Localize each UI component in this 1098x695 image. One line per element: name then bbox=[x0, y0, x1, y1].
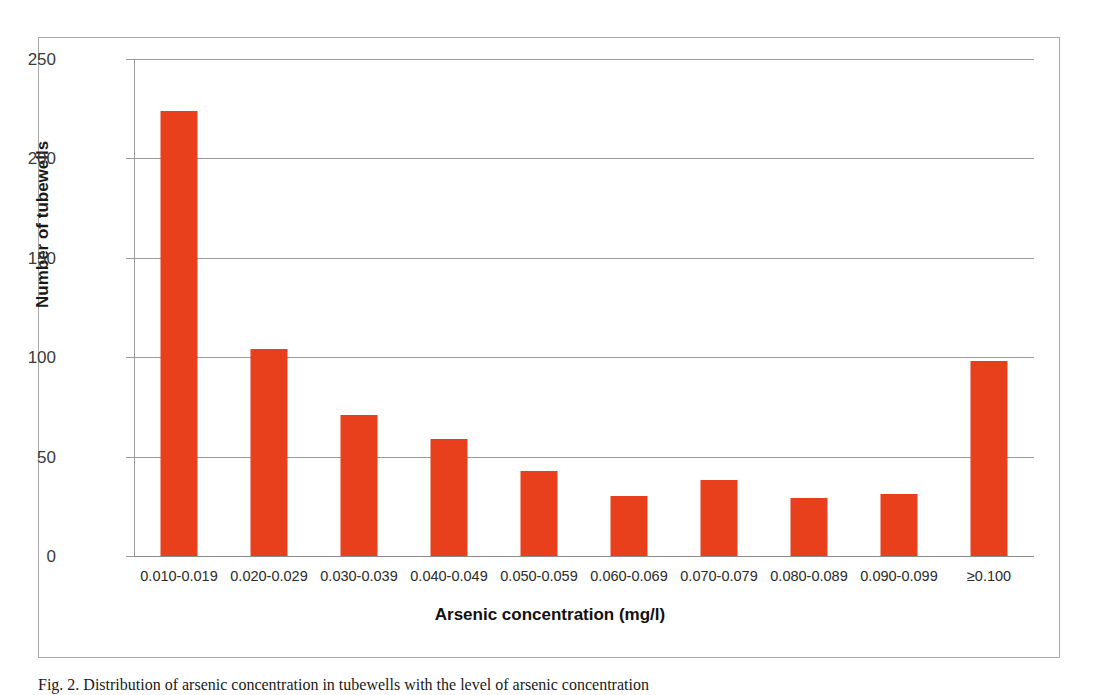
bar-slot bbox=[764, 59, 854, 556]
tick-mark-250 bbox=[126, 59, 134, 60]
x-tick-label-6: 0.070-0.079 bbox=[674, 568, 764, 584]
y-tick-label-150: 150 bbox=[28, 249, 56, 266]
bar-slot bbox=[584, 59, 674, 556]
x-tick-label-4: 0.050-0.059 bbox=[494, 568, 584, 584]
bar-slot bbox=[134, 59, 224, 556]
bar-7[interactable] bbox=[791, 498, 828, 556]
bar-slot bbox=[314, 59, 404, 556]
y-tick-label-200: 200 bbox=[28, 150, 56, 167]
bar-3[interactable] bbox=[431, 439, 468, 556]
bar-slot bbox=[224, 59, 314, 556]
x-tick-label-8: 0.090-0.099 bbox=[854, 568, 944, 584]
tick-mark-150 bbox=[126, 258, 134, 259]
bar-4[interactable] bbox=[521, 471, 558, 556]
bar-9[interactable] bbox=[971, 361, 1008, 556]
tick-mark-200 bbox=[126, 158, 134, 159]
y-tick-label-100: 100 bbox=[28, 349, 56, 366]
y-tick-label-0: 0 bbox=[47, 548, 56, 565]
y-tick-label-50: 50 bbox=[37, 448, 56, 465]
bar-6[interactable] bbox=[701, 480, 738, 556]
bar-slot bbox=[674, 59, 764, 556]
tick-mark-0 bbox=[126, 556, 134, 557]
figure-frame: Number of tubewells 250 200 150 100 50 0 bbox=[38, 37, 1060, 658]
x-tick-label-2: 0.030-0.039 bbox=[314, 568, 404, 584]
plot-area bbox=[134, 59, 1034, 556]
x-tick-label-5: 0.060-0.069 bbox=[584, 568, 674, 584]
x-tick-label-3: 0.040-0.049 bbox=[404, 568, 494, 584]
bar-slot bbox=[854, 59, 944, 556]
x-axis-title: Arsenic concentration (mg/l) bbox=[39, 605, 1061, 625]
x-tick-label-1: 0.020-0.029 bbox=[224, 568, 314, 584]
gridline-0-baseline bbox=[134, 556, 1034, 557]
tick-mark-100 bbox=[126, 357, 134, 358]
bar-slot bbox=[944, 59, 1034, 556]
y-tick-label-250: 250 bbox=[28, 51, 56, 68]
bar-0[interactable] bbox=[161, 111, 198, 556]
bar-slot bbox=[494, 59, 584, 556]
bar-8[interactable] bbox=[881, 494, 918, 556]
x-tick-label-9: ≥0.100 bbox=[944, 568, 1034, 584]
tick-mark-50 bbox=[126, 457, 134, 458]
bar-5[interactable] bbox=[611, 496, 648, 556]
x-tick-label-0: 0.010-0.019 bbox=[134, 568, 224, 584]
bar-slot bbox=[404, 59, 494, 556]
bar-2[interactable] bbox=[341, 415, 378, 556]
bar-1[interactable] bbox=[251, 349, 288, 556]
x-tick-label-7: 0.080-0.089 bbox=[764, 568, 854, 584]
figure-caption: Fig. 2. Distribution of arsenic concentr… bbox=[38, 676, 1078, 694]
